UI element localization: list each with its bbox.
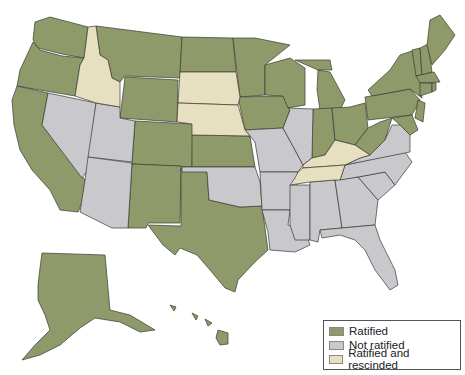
state-hi: [170, 305, 228, 345]
state-sd: [178, 72, 240, 105]
state-az: [80, 157, 132, 228]
legend-label: Ratified and rescinded: [348, 347, 455, 371]
state-co: [132, 121, 193, 167]
state-fl: [320, 225, 398, 290]
legend-item-rescinded: Ratified and rescinded: [329, 352, 455, 366]
state-ms: [290, 185, 310, 240]
state-nd: [180, 37, 236, 72]
legend-item-ratified: Ratified: [329, 324, 455, 338]
map-legend: Ratified Not ratified Ratified and resci…: [323, 320, 461, 370]
us-map: [0, 0, 465, 375]
state-ia: [238, 96, 290, 130]
state-me: [427, 15, 455, 65]
state-wy: [120, 77, 178, 122]
rescinded-swatch: [329, 355, 343, 364]
state-nm: [128, 164, 181, 228]
ratified-swatch: [329, 327, 344, 336]
state-ks: [192, 135, 255, 167]
state-ct: [420, 83, 432, 96]
legend-label: Ratified: [349, 325, 388, 337]
not-ratified-swatch: [329, 341, 344, 350]
state-ri: [432, 83, 436, 92]
state-ak: [22, 253, 155, 360]
